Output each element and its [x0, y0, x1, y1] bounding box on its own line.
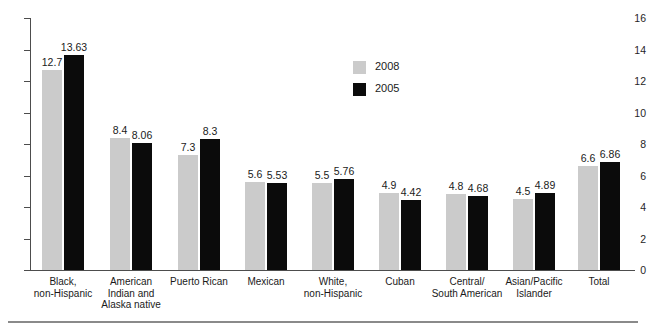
- y-axis-tick: [24, 144, 30, 145]
- bar-2005: [267, 183, 287, 270]
- y-axis-tick-label: 12: [627, 76, 646, 86]
- bar-group: [446, 269, 488, 270]
- bar-2008: [578, 166, 598, 270]
- bar-2008: [42, 70, 62, 270]
- legend-swatch-2005-icon: [353, 83, 366, 96]
- bar-group: [379, 269, 421, 270]
- y-axis-spine: [30, 18, 31, 270]
- y-axis-tick: [24, 176, 30, 177]
- bar-group: [513, 269, 555, 270]
- bar-2005: [468, 196, 488, 270]
- bar-group: [178, 269, 220, 270]
- bar-value-label-2005: 4.68: [458, 183, 498, 194]
- category-label-line: Indian and: [79, 288, 183, 300]
- category-label-line: non-Hispanic: [281, 288, 385, 300]
- bar-2008: [379, 193, 399, 270]
- bar-2005: [535, 193, 555, 270]
- bar-2005: [200, 139, 220, 270]
- legend-swatch-2008-icon: [353, 61, 366, 74]
- y-axis-tick-label: 14: [627, 45, 646, 55]
- bar-value-label-2005: 5.53: [257, 170, 297, 181]
- bar-value-label-2008: 12.7: [32, 57, 72, 68]
- bar-2005: [401, 200, 421, 270]
- y-axis-tick-label: 4: [627, 202, 646, 212]
- bar-2005: [600, 162, 620, 270]
- y-axis-tick: [24, 81, 30, 82]
- y-axis-tick-label: 6: [627, 171, 646, 181]
- y-axis-tick-label: 8: [627, 139, 646, 149]
- bar-2008: [446, 194, 466, 270]
- bar-group: [110, 269, 152, 270]
- bar-2008: [245, 182, 265, 270]
- category-label-line: Total: [547, 276, 651, 288]
- footer-divider: [8, 321, 638, 323]
- bar-value-label-2005: 6.86: [590, 149, 630, 160]
- bar-2008: [110, 138, 130, 270]
- y-axis-tick-label: 0: [627, 265, 646, 275]
- x-axis-category-label: Total: [547, 276, 651, 288]
- bar-value-label-2005: 4.89: [525, 180, 565, 191]
- bar-value-label-2005: 5.76: [324, 166, 364, 177]
- bar-value-label-2008: 7.3: [168, 142, 208, 153]
- y-axis-tick-label: 2: [627, 234, 646, 244]
- y-axis-tick: [24, 18, 30, 19]
- bar-value-label-2005: 8.3: [190, 126, 230, 137]
- y-axis-tick-label: 10: [627, 108, 646, 118]
- y-axis-tick: [24, 239, 30, 240]
- legend-label-2005: 2005: [375, 82, 399, 95]
- bar-2005: [132, 143, 152, 270]
- x-axis-baseline: [30, 270, 635, 271]
- y-axis-tick-label: 16: [627, 13, 646, 23]
- bar-value-label-2005: 4.42: [391, 187, 431, 198]
- bar-group: [312, 269, 354, 270]
- bar-2008: [513, 199, 533, 270]
- category-label-line: Islander: [482, 288, 586, 300]
- bar-2008: [178, 155, 198, 270]
- bar-group: [578, 269, 620, 270]
- category-label-line: Alaska native: [79, 299, 183, 311]
- y-axis-tick: [24, 270, 30, 271]
- bar-value-label-2005: 8.06: [122, 130, 162, 141]
- bar-2005: [64, 55, 84, 270]
- y-axis-tick: [24, 207, 30, 208]
- y-axis-tick: [24, 113, 30, 114]
- y-axis-tick: [24, 50, 30, 51]
- bar-group: [245, 269, 287, 270]
- bar-2008: [312, 183, 332, 270]
- bar-group: [42, 269, 84, 270]
- bar-value-label-2005: 13.63: [54, 42, 94, 53]
- legend-label-2008: 2008: [375, 60, 399, 73]
- bar-2005: [334, 179, 354, 270]
